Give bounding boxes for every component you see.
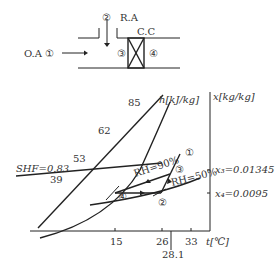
t-tick-26: 26 (156, 236, 169, 247)
h-tick-62: 62 (98, 125, 111, 136)
x4-label: x₄=0.0095 (215, 188, 268, 199)
out-point-label: ④ (149, 48, 158, 59)
point-2-label: ② (158, 197, 167, 208)
rh90-label: RH=90% (132, 154, 180, 179)
point-3-label: ③ (175, 164, 184, 175)
h-axis-label: h[kJ/kg] (159, 94, 199, 105)
point-4-label: ④ (118, 191, 127, 202)
x-axis-label: x[kg/kg] (213, 91, 255, 102)
cc-label: C.C (137, 26, 155, 37)
h-tick-39: 39 (50, 174, 63, 185)
h-tick-85: 85 (128, 97, 141, 108)
t-tick-15: 15 (110, 236, 123, 247)
t-tick-28-1: 28.1 (162, 249, 184, 260)
mix-point-label: ③ (117, 48, 126, 59)
t-tick-33: 33 (185, 236, 198, 247)
x3-label: x₃=0.01345 (215, 164, 274, 175)
point-1-label: ① (185, 147, 194, 158)
duct-schematic (62, 20, 180, 68)
psychrometric-diagram: O.A ① ② R.A C.C ③ ④ h[kJ/kg] x[kg/kg] 85… (0, 0, 279, 271)
oa-label: O.A ① (24, 48, 54, 59)
t-axis-label: t[℃] (206, 236, 229, 247)
ra-number: ② (102, 12, 111, 23)
shf-label: SHF=0.83 (16, 163, 69, 174)
h-tick-53: 53 (73, 153, 86, 164)
ra-label: R.A (120, 12, 139, 23)
